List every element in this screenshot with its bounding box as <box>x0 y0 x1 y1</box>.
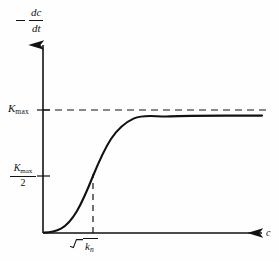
x-axis-title: c <box>266 228 270 238</box>
y-axis-numerator: dc <box>29 6 43 19</box>
y-axis-denominator: dt <box>30 22 43 35</box>
plot-canvas <box>0 0 279 261</box>
y-axis-title: dc dt <box>16 6 43 34</box>
kmax-half-denominator: 2 <box>21 177 26 189</box>
kn-subscript: n <box>90 245 94 254</box>
kmax-half-subscript: max <box>20 167 32 175</box>
y-tick-label-kmax: Kmax <box>8 103 29 115</box>
x-tick-label-sqrt-kn: kn <box>70 238 98 255</box>
fraction-bar <box>29 20 43 21</box>
chart-figure: dc dt Kmax Kmax 2 kn c <box>0 0 279 261</box>
radical-sign-icon <box>70 238 83 254</box>
kmax-half-numerator-group: Kmax <box>14 162 33 175</box>
saturation-curve <box>44 116 262 233</box>
derivative-fraction: dc dt <box>29 6 43 34</box>
radicand-group: kn <box>83 238 98 255</box>
minus-sign-icon <box>16 20 25 21</box>
kmax-subscript: max <box>15 107 29 116</box>
y-tick-label-kmax-half: Kmax 2 <box>10 162 36 189</box>
